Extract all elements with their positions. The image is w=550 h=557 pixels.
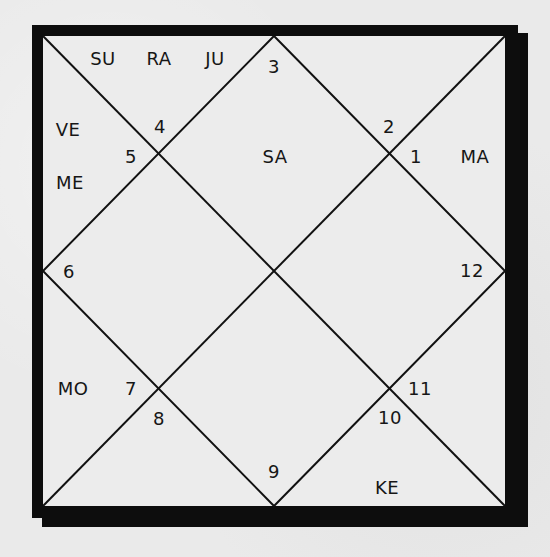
house-number-2: 2 bbox=[383, 118, 395, 136]
house-number-10: 10 bbox=[378, 409, 402, 427]
planet-ma: MA bbox=[461, 148, 490, 166]
house-number-6: 6 bbox=[63, 263, 75, 281]
planet-ve: VE bbox=[56, 121, 81, 139]
planet-ra: RA bbox=[146, 50, 171, 68]
planet-sa: SA bbox=[262, 148, 287, 166]
planet-ke: KE bbox=[375, 479, 399, 497]
house-number-11: 11 bbox=[408, 380, 432, 398]
house-number-8: 8 bbox=[153, 410, 165, 428]
house-number-1: 1 bbox=[410, 148, 422, 166]
house-number-9: 9 bbox=[268, 463, 280, 481]
house-number-5: 5 bbox=[125, 148, 137, 166]
planet-su: SU bbox=[90, 50, 116, 68]
house-number-7: 7 bbox=[125, 380, 137, 398]
planet-me: ME bbox=[56, 174, 84, 192]
house-number-3: 3 bbox=[268, 58, 280, 76]
planet-mo: MO bbox=[58, 380, 89, 398]
planet-ju: JU bbox=[205, 50, 224, 68]
house-number-12: 12 bbox=[460, 262, 484, 280]
house-number-4: 4 bbox=[154, 118, 166, 136]
